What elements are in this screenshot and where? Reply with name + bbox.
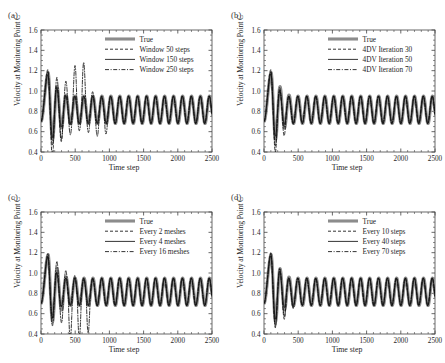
legend-label: True bbox=[140, 217, 154, 226]
legend-label: Every 4 meshes bbox=[140, 237, 186, 246]
panel-c: (c) Velocity at Monitoring Point C Time … bbox=[0, 182, 222, 363]
legend: TrueEvery 10 stepsEvery 40 stepsEvery 70… bbox=[328, 217, 406, 257]
svg-text:1.6: 1.6 bbox=[29, 209, 38, 217]
svg-text:1.2: 1.2 bbox=[252, 67, 261, 75]
svg-text:1000: 1000 bbox=[325, 155, 340, 163]
x-axis-label-c: Time step bbox=[36, 345, 212, 354]
svg-text:1000: 1000 bbox=[325, 337, 340, 345]
x-axis-label-b: Time step bbox=[259, 163, 435, 172]
svg-text:2000: 2000 bbox=[394, 155, 409, 163]
svg-text:1.4: 1.4 bbox=[29, 47, 38, 55]
svg-text:1.0: 1.0 bbox=[29, 270, 38, 278]
svg-text:1.2: 1.2 bbox=[29, 249, 38, 257]
svg-text:500: 500 bbox=[293, 337, 304, 345]
svg-text:1500: 1500 bbox=[359, 155, 374, 163]
svg-text:0.4: 0.4 bbox=[29, 331, 38, 339]
svg-text:0: 0 bbox=[39, 337, 43, 345]
svg-text:1.2: 1.2 bbox=[252, 249, 261, 257]
svg-text:1.2: 1.2 bbox=[29, 67, 38, 75]
plot-svg-d: 050010001500200025000.40.60.81.01.21.41.… bbox=[223, 182, 445, 363]
svg-text:0.8: 0.8 bbox=[252, 108, 261, 116]
y-axis-label-b: Velocity at Monitoring Point C bbox=[236, 1, 245, 121]
svg-text:1.4: 1.4 bbox=[252, 229, 261, 237]
svg-text:1.4: 1.4 bbox=[252, 47, 261, 55]
figure-panel-grid: (a) Velocity at Monitoring Point C Time … bbox=[0, 0, 445, 363]
svg-text:0: 0 bbox=[262, 155, 266, 163]
legend-label: Every 40 steps bbox=[363, 237, 406, 246]
panel-a: (a) Velocity at Monitoring Point C Time … bbox=[0, 0, 222, 181]
legend-label: Every 10 steps bbox=[363, 227, 406, 236]
legend-label: 4DV Iteration 50 bbox=[363, 55, 413, 64]
svg-text:500: 500 bbox=[293, 155, 304, 163]
y-axis-label-a: Velocity at Monitoring Point C bbox=[13, 1, 22, 121]
x-axis-label-d: Time step bbox=[259, 345, 435, 354]
legend-label: Window 250 steps bbox=[140, 65, 194, 74]
plot-b: Velocity at Monitoring Point C Time step… bbox=[223, 0, 445, 181]
svg-text:0: 0 bbox=[262, 337, 266, 345]
x-axis-label-a: Time step bbox=[36, 163, 212, 172]
legend-label: True bbox=[363, 217, 377, 226]
plot-c: Velocity at Monitoring Point C Time step… bbox=[0, 182, 222, 363]
svg-text:0.8: 0.8 bbox=[29, 290, 38, 298]
legend-label: True bbox=[140, 35, 154, 44]
legend: TrueEvery 2 meshesEvery 4 meshesEvery 16… bbox=[105, 217, 190, 257]
svg-text:1.0: 1.0 bbox=[29, 88, 38, 96]
svg-text:0.8: 0.8 bbox=[252, 290, 261, 298]
svg-text:500: 500 bbox=[70, 337, 81, 345]
svg-text:0.4: 0.4 bbox=[252, 331, 261, 339]
y-axis-label-d: Velocity at Monitoring Point C bbox=[236, 183, 245, 303]
svg-text:0.8: 0.8 bbox=[29, 108, 38, 116]
legend-label: Window 50 steps bbox=[140, 45, 191, 54]
svg-text:2000: 2000 bbox=[171, 155, 186, 163]
svg-text:1.0: 1.0 bbox=[252, 270, 261, 278]
legend-label: 4DV Iteration 70 bbox=[363, 65, 413, 74]
plot-a: Velocity at Monitoring Point C Time step… bbox=[0, 0, 222, 181]
svg-text:1.4: 1.4 bbox=[29, 229, 38, 237]
legend: True4DV Iteration 304DV Iteration 504DV … bbox=[328, 35, 413, 75]
svg-text:2500: 2500 bbox=[205, 337, 220, 345]
legend: TrueWindow 50 stepsWindow 150 stepsWindo… bbox=[105, 35, 194, 75]
svg-text:0.4: 0.4 bbox=[252, 149, 261, 157]
svg-text:500: 500 bbox=[70, 155, 81, 163]
svg-text:1.0: 1.0 bbox=[252, 88, 261, 96]
legend-label: True bbox=[363, 35, 377, 44]
plot-svg-c: 050010001500200025000.40.60.81.01.21.41.… bbox=[0, 182, 222, 363]
svg-text:0.6: 0.6 bbox=[252, 128, 261, 136]
svg-text:1.6: 1.6 bbox=[252, 209, 261, 217]
legend-label: Every 2 meshes bbox=[140, 227, 186, 236]
series-line bbox=[264, 72, 435, 146]
svg-text:0.4: 0.4 bbox=[29, 149, 38, 157]
legend-label: Every 16 meshes bbox=[140, 247, 190, 256]
svg-text:2500: 2500 bbox=[428, 337, 443, 345]
panel-d: (d) Velocity at Monitoring Point C Time … bbox=[223, 182, 445, 363]
svg-text:1500: 1500 bbox=[136, 155, 151, 163]
svg-text:2000: 2000 bbox=[171, 337, 186, 345]
legend-label: Window 150 steps bbox=[140, 55, 194, 64]
y-axis-label-c: Velocity at Monitoring Point C bbox=[13, 183, 22, 303]
svg-text:1000: 1000 bbox=[102, 155, 117, 163]
svg-text:1000: 1000 bbox=[102, 337, 117, 345]
svg-text:1.6: 1.6 bbox=[29, 27, 38, 35]
svg-text:1500: 1500 bbox=[359, 337, 374, 345]
svg-text:1.6: 1.6 bbox=[252, 27, 261, 35]
plot-svg-a: 050010001500200025000.40.60.81.01.21.41.… bbox=[0, 0, 222, 181]
plot-svg-b: 050010001500200025000.40.60.81.01.21.41.… bbox=[223, 0, 445, 181]
svg-text:0: 0 bbox=[39, 155, 43, 163]
svg-text:1500: 1500 bbox=[136, 337, 151, 345]
svg-text:0.6: 0.6 bbox=[252, 310, 261, 318]
panel-b: (b) Velocity at Monitoring Point C Time … bbox=[223, 0, 445, 181]
plot-d: Velocity at Monitoring Point C Time step… bbox=[223, 182, 445, 363]
svg-text:2500: 2500 bbox=[428, 155, 443, 163]
svg-text:0.6: 0.6 bbox=[29, 128, 38, 136]
svg-text:2000: 2000 bbox=[394, 337, 409, 345]
svg-text:2500: 2500 bbox=[205, 155, 220, 163]
legend-label: Every 70 steps bbox=[363, 247, 406, 256]
svg-text:0.6: 0.6 bbox=[29, 310, 38, 318]
legend-label: 4DV Iteration 30 bbox=[363, 45, 413, 54]
